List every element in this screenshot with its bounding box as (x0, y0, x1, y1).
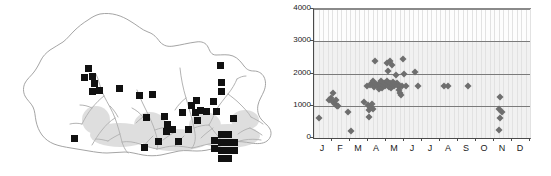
occurrence-record-marker (175, 138, 182, 145)
occurrence-record-marker (89, 73, 96, 80)
occurrence-record-marker (179, 109, 186, 116)
occurrence-record-marker (161, 113, 168, 120)
x-axis-tick (475, 138, 476, 141)
distribution-map-panel (0, 0, 280, 176)
x-axis-tick (367, 138, 368, 141)
occurrence-record-marker (218, 147, 225, 154)
x-axis-tick-label: J (403, 143, 421, 153)
x-axis-tick (349, 138, 350, 141)
figure-container: 01000200030004000 JFMAMJJASOND (0, 0, 551, 176)
occurrence-record-marker (185, 126, 192, 133)
x-axis-tick-label: M (349, 143, 367, 153)
occurrence-record-marker (211, 137, 218, 144)
x-axis-tick-label: J (313, 143, 331, 153)
occurrence-record-marker (169, 126, 176, 133)
occurrence-record-marker (217, 62, 224, 69)
x-axis-tick-label: J (421, 143, 439, 153)
occurrence-record-marker (231, 139, 238, 146)
x-axis-tick-label: O (475, 143, 493, 153)
occurrence-record-marker (225, 155, 232, 162)
occurrence-record-marker (85, 65, 92, 72)
x-axis-tick (529, 138, 530, 141)
occurrence-record-marker (71, 135, 78, 142)
x-axis-tick-label: N (493, 143, 511, 153)
x-axis-tick-label: S (457, 143, 475, 153)
occurrence-record-marker (213, 108, 220, 115)
occurrence-record-marker (225, 131, 232, 138)
x-axis-tick (439, 138, 440, 141)
occurrence-record-marker (136, 92, 143, 99)
occurrence-record-marker (81, 74, 88, 81)
occurrence-record-marker (218, 131, 225, 138)
x-axis-tick (493, 138, 494, 141)
occurrence-record-marker (231, 147, 238, 154)
x-axis-tick (511, 138, 512, 141)
occurrence-record-marker (141, 144, 148, 151)
occurrence-record-marker (143, 114, 150, 121)
occurrence-record-marker (210, 98, 217, 105)
elevation-scatter-panel: 01000200030004000 JFMAMJJASOND (281, 0, 551, 176)
occurrence-record-marker (218, 139, 225, 146)
occurrence-record-layer (0, 0, 280, 176)
occurrence-record-marker (203, 108, 210, 115)
occurrence-record-marker (211, 145, 218, 152)
occurrence-record-marker (149, 91, 156, 98)
x-axis-tick-label: F (331, 143, 349, 153)
x-axis-labels: JFMAMJJASOND (281, 0, 551, 176)
occurrence-record-marker (91, 80, 98, 87)
occurrence-record-marker (218, 88, 225, 95)
occurrence-record-marker (194, 117, 201, 124)
x-axis-tick (331, 138, 332, 141)
occurrence-record-marker (218, 155, 225, 162)
x-axis-tick (385, 138, 386, 141)
x-axis-tick (457, 138, 458, 141)
x-axis-tick-label: A (439, 143, 457, 153)
occurrence-record-marker (155, 138, 162, 145)
occurrence-record-marker (116, 85, 123, 92)
occurrence-record-marker (96, 87, 103, 94)
occurrence-record-marker (230, 115, 237, 122)
x-axis-tick (403, 138, 404, 141)
occurrence-record-marker (193, 97, 200, 104)
occurrence-record-marker (218, 79, 225, 86)
x-axis-tick-label: A (367, 143, 385, 153)
occurrence-record-marker (89, 88, 96, 95)
x-axis-tick (421, 138, 422, 141)
x-axis-tick-label: D (511, 143, 529, 153)
x-axis-tick-label: M (385, 143, 403, 153)
